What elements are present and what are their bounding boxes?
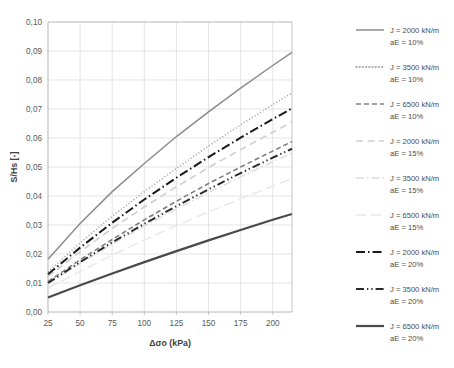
legend-label-line1-1: J = 3500 kN/m (390, 63, 439, 72)
legend-label-line1-7: J = 3500 kN/m (390, 285, 439, 294)
series-line-6 (48, 108, 292, 274)
legend-item-1[interactable]: J = 3500 kN/maE = 10% (356, 63, 439, 84)
legend-label-line1-4: J = 3500 kN/m (390, 174, 439, 183)
legend-item-4[interactable]: J = 3500 kN/maE = 15% (356, 174, 439, 195)
y-tick-label: 0,10 (26, 18, 42, 27)
x-axis-tick-labels: 255075100125150175200 (43, 312, 280, 328)
legend-item-8[interactable]: J = 6500 kN/maE = 20% (356, 322, 439, 343)
legend-label-line1-8: J = 6500 kN/m (390, 322, 439, 331)
y-tick-label: 0,02 (26, 250, 42, 259)
chart-figure: 0,000,010,020,030,040,050,060,070,080,09… (0, 0, 454, 368)
line-chart: 0,000,010,020,030,040,050,060,070,080,09… (0, 0, 454, 368)
legend-item-6[interactable]: J = 2000 kN/maE = 20% (356, 248, 439, 269)
y-tick-label: 0,07 (26, 105, 42, 114)
y-tick-label: 0,00 (26, 308, 42, 317)
y-tick-label: 0,05 (26, 163, 42, 172)
y-tick-label: 0,03 (26, 221, 42, 230)
legend-label-line2-0: aE = 10% (390, 38, 423, 47)
series-line-7 (48, 149, 292, 283)
series-line-5 (48, 179, 292, 289)
series-line-8 (48, 214, 292, 298)
legend-label-line1-0: J = 2000 kN/m (390, 26, 439, 35)
y-tick-label: 0,09 (26, 47, 42, 56)
y-tick-label: 0,08 (26, 76, 42, 85)
y-tick-label: 0,04 (26, 192, 42, 201)
legend-label-line2-5: aE = 15% (390, 223, 423, 232)
x-axis-title: Δσo (kPa) (149, 338, 191, 348)
legend-label-line2-8: aE = 20% (390, 334, 423, 343)
legend-item-3[interactable]: J = 2000 kN/maE = 15% (356, 137, 439, 158)
x-tick-label: 175 (234, 319, 248, 328)
legend-item-2[interactable]: J = 6500 kN/maE = 10% (356, 100, 439, 121)
x-tick-label: 50 (76, 319, 86, 328)
legend-item-5[interactable]: J = 6500 kN/maE = 15% (356, 211, 439, 232)
x-tick-label: 25 (43, 319, 53, 328)
legend-label-line2-7: aE = 20% (390, 297, 423, 306)
y-axis-tick-labels: 0,000,010,020,030,040,050,060,070,080,09… (26, 18, 42, 317)
legend-item-7[interactable]: J = 3500 kN/maE = 20% (356, 285, 439, 306)
legend-label-line2-6: aE = 20% (390, 260, 423, 269)
legend-label-line2-1: aE = 10% (390, 75, 423, 84)
x-tick-label: 200 (266, 319, 280, 328)
legend-label-line1-3: J = 2000 kN/m (390, 137, 439, 146)
legend-label-line2-3: aE = 15% (390, 149, 423, 158)
legend-label-line1-6: J = 2000 kN/m (390, 248, 439, 257)
x-tick-label: 100 (137, 319, 151, 328)
legend-item-0[interactable]: J = 2000 kN/maE = 10% (356, 26, 439, 47)
x-tick-label: 125 (170, 319, 184, 328)
chart-legend: J = 2000 kN/maE = 10%J = 3500 kN/maE = 1… (356, 26, 439, 343)
x-tick-label: 75 (108, 319, 118, 328)
x-tick-label: 150 (202, 319, 216, 328)
legend-label-line2-4: aE = 15% (390, 186, 423, 195)
legend-label-line2-2: aE = 10% (390, 112, 423, 121)
legend-label-line1-5: J = 6500 kN/m (390, 211, 439, 220)
legend-label-line1-2: J = 6500 kN/m (390, 100, 439, 109)
y-tick-label: 0,06 (26, 134, 42, 143)
y-tick-label: 0,01 (26, 279, 42, 288)
data-series-layer (48, 52, 292, 297)
y-axis-title: S/Hs [-] (9, 152, 19, 183)
